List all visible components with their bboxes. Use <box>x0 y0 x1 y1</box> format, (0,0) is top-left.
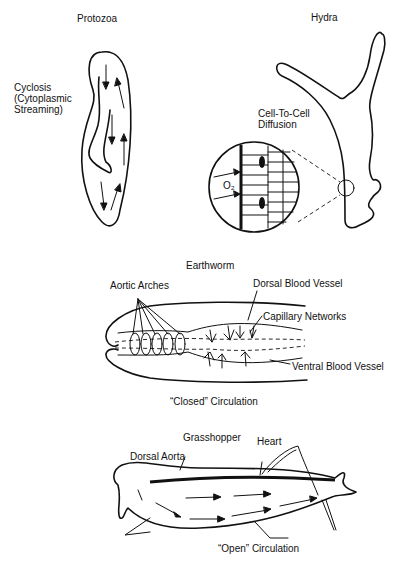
cyclosis-label: Cyclosis (Cytoplasmic Streaming) <box>14 82 72 115</box>
closed-circulation-caption: “Closed” Circulation <box>170 396 258 407</box>
open-circulation-caption: “Open” Circulation <box>218 543 299 554</box>
dorsal-aorta-label: Dorsal Aorta <box>130 451 185 462</box>
earthworm-figure <box>106 291 307 382</box>
diffusion-label-line-2: Diffusion <box>258 119 310 130</box>
dorsal-blood-vessel-label: Dorsal Blood Vessel <box>253 278 343 289</box>
ventral-blood-vessel-label: Ventral Blood Vessel <box>292 361 384 372</box>
cyclosis-label-line-2: (Cytoplasmic <box>14 93 72 104</box>
heart-label: Heart <box>257 436 281 447</box>
oxygen-label: O₂ <box>223 180 235 191</box>
grasshopper-title: Grasshopper <box>183 432 241 443</box>
diffusion-label: Cell-To-Cell Diffusion <box>258 108 310 130</box>
diffusion-label-line-1: Cell-To-Cell <box>258 108 310 119</box>
protozoa-title: Protozoa <box>77 13 117 24</box>
protozoa-figure <box>82 52 131 226</box>
capillary-networks-label: Capillary Networks <box>263 311 346 322</box>
cyclosis-label-line-1: Cyclosis <box>14 82 72 93</box>
cyclosis-label-line-3: Streaming) <box>14 104 72 115</box>
cut-off-heading-text <box>14 0 17 8</box>
earthworm-title: Earthworm <box>186 260 234 271</box>
hydra-title: Hydra <box>311 12 338 23</box>
flow-arrows <box>138 490 317 522</box>
hydra-figure <box>277 32 385 227</box>
aortic-arches-label: Aortic Arches <box>110 280 169 291</box>
